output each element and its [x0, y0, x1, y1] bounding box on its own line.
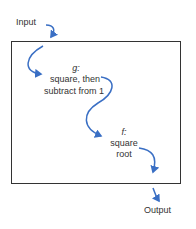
- arrow-g-to-f: [86, 77, 112, 136]
- flow-arrows: [0, 0, 196, 229]
- composition-diagram: Input g: square, then subtract from 1 f:…: [0, 0, 196, 229]
- arrow-from-f: [139, 148, 155, 172]
- arrow-to-g: [28, 46, 43, 74]
- output-arrow: [153, 188, 159, 201]
- input-arrow: [46, 25, 54, 37]
